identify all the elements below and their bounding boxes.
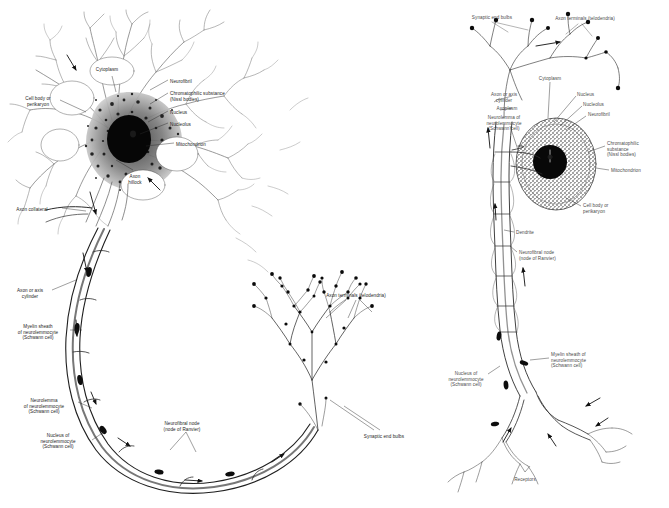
label-nucleolus: Nucleolus: [170, 122, 191, 128]
label-axon-axis-cylinder: Axon or axis cylinder: [0, 288, 70, 299]
label-cytoplasm-r: Cytoplasm: [510, 76, 590, 82]
label-nucleus-schwann: Nucleus of neurolemmocyte (Schwann cell): [18, 433, 98, 450]
label-neurolemma: Neurolemma of neurolemmocyte (Schwann ce…: [4, 398, 84, 415]
right-panel-labels: Synaptic end bulbsAxon terminals (telode…: [430, 0, 669, 508]
label-cell-body-r: Cell body or perikaryon: [583, 203, 608, 214]
label-dendrite-r: Dendrite: [516, 230, 534, 236]
label-neurofibral-node: Neurofibral node (node of Ranvier): [142, 421, 222, 432]
label-axon-hillock: Axon hillock: [95, 174, 175, 185]
label-cell-body: Cell body or perikaryon: [0, 96, 78, 107]
label-neurolemma-r: Neurolemma of neurolemmocyte (Schwann ce…: [464, 115, 544, 132]
label-nucleus: Nucleus: [170, 110, 187, 116]
label-neurofibril-r: Neurofibril: [588, 112, 610, 118]
label-synaptic-end-bulbs-r: Synaptic end bulbs: [452, 15, 532, 21]
label-axon-terminals-r: Axon terminals (telodendria): [545, 16, 625, 22]
label-synaptic-end-bulbs: Synaptic end bulbs: [344, 434, 424, 440]
label-axoplasm-r: Axoplasm: [467, 106, 547, 112]
label-cytoplasm: Cytoplasm: [67, 67, 147, 73]
label-myelin-sheath-r: Myelin sheath of neurolemmocyte (Schwann…: [551, 352, 586, 369]
label-receptors-r: Receptors: [485, 477, 565, 483]
label-axon-terminals: Axon terminals (telodendria): [316, 293, 396, 299]
label-neurofibril: Neurofibril: [170, 79, 192, 85]
label-myelin-sheath: Myelin sheath of neurolemmocyte (Schwann…: [0, 324, 78, 341]
label-neurofibral-node-r: Neurofibral node (node of Ranvier): [519, 250, 556, 261]
label-chromatophilic: Chromatophilic substance (Nissl bodies): [170, 91, 225, 102]
label-nucleus-schwann-r: Nucleus of neurolemmocyte (Schwann cell): [426, 371, 506, 388]
label-nucleus-r: Nucleus: [577, 92, 594, 98]
label-mitochondrion-r: Mitochondrion: [611, 168, 641, 174]
left-panel-labels: CytoplasmNeurofibrilChromatophilic subst…: [0, 0, 430, 508]
label-chromatophilic-r: Chromatophilic substance (Nissl bodies): [607, 141, 639, 158]
label-axon-axis-cylinder-r: Axon or axis cylinder: [464, 92, 544, 103]
figure-canvas: CytoplasmNeurofibrilChromatophilic subst…: [0, 0, 669, 508]
label-mitochondrion: Mitochondrion: [176, 142, 206, 148]
label-nucleolus-r: Nucleolus: [583, 102, 604, 108]
label-axon-collateral: Axon collateral: [0, 207, 72, 213]
